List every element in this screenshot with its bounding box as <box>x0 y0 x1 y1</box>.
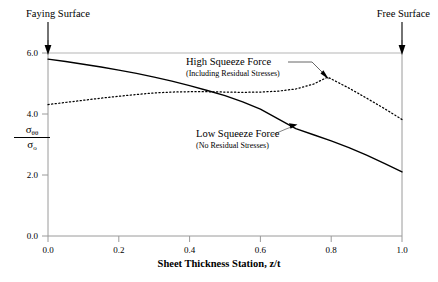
annotation-high-squeeze-title: High Squeeze Force <box>186 56 280 68</box>
free-surface-arrow <box>399 22 406 55</box>
y-axis-denominator-subscript: o <box>33 144 37 152</box>
free-surface-label: Free Surface <box>377 8 430 19</box>
y-tick-label-4: 4.0 <box>14 109 38 119</box>
annotation-low-squeeze-title: Low Squeeze Force <box>196 128 279 140</box>
y-axis-denominator: σo <box>14 138 50 151</box>
y-tick-label-2: 2.0 <box>14 170 38 180</box>
faying-surface-arrow <box>45 22 52 55</box>
x-tick-label-1: 0.2 <box>104 245 134 255</box>
series-high-squeeze-force <box>48 77 402 119</box>
x-tick-label-5: 1.0 <box>387 245 417 255</box>
annotation-low-squeeze-force: Low Squeeze Force (No Residual Stresses) <box>196 128 279 151</box>
chart-figure: Faying Surface Free Surface High Squeeze… <box>0 0 438 282</box>
x-tick-label-3: 0.6 <box>245 245 275 255</box>
high-squeeze-leader <box>288 62 329 80</box>
x-axis-title: Sheet Thickness Station, z/t <box>0 258 438 269</box>
annotation-low-squeeze-subtitle: (No Residual Stresses) <box>196 140 279 151</box>
x-tick-label-0: 0.0 <box>33 245 63 255</box>
y-tick-label-6: 6.0 <box>14 48 38 58</box>
y-axis-numerator: σθθ <box>14 124 50 138</box>
y-tick-label-0: 0.0 <box>14 231 38 241</box>
faying-surface-label: Faying Surface <box>26 8 90 19</box>
x-tick-label-4: 0.8 <box>316 245 346 255</box>
annotation-high-squeeze-force: High Squeeze Force (Including Residual S… <box>186 56 280 79</box>
y-axis-numerator-subscript: θθ <box>32 129 39 137</box>
x-tick-label-2: 0.4 <box>175 245 205 255</box>
annotation-high-squeeze-subtitle: (Including Residual Stresses) <box>186 68 280 79</box>
y-axis-title: σθθ σo <box>14 124 50 150</box>
y-axis-numerator-symbol: σ <box>26 123 32 135</box>
